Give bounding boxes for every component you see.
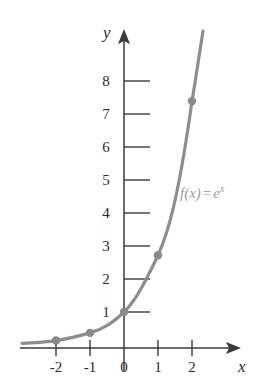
function-label-fx: f(x) <box>180 185 201 201</box>
exponential-function-figure: 8 7 6 5 4 3 2 1 -2 -1 0 1 2 y x f(x)=ex <box>0 0 268 390</box>
data-point-marker <box>86 329 94 337</box>
x-axis-label: x <box>238 358 246 375</box>
y-tick-label-1: 1 <box>99 305 113 320</box>
y-tick-label-3: 3 <box>99 239 113 254</box>
data-point-marker <box>154 251 162 259</box>
data-point-marker <box>52 336 60 344</box>
x-tick-label-minus-2: -2 <box>44 360 68 375</box>
x-tick-label-1: 1 <box>148 360 168 375</box>
x-tick-label-2: 2 <box>182 360 202 375</box>
y-tick-label-4: 4 <box>99 206 113 221</box>
chart-svg <box>0 0 268 390</box>
function-label-equals: = <box>201 185 213 201</box>
y-tick-label-7: 7 <box>99 107 113 122</box>
function-label-exponent: x <box>220 183 224 194</box>
function-label: f(x)=ex <box>180 186 224 201</box>
x-tick-label-minus-1: -1 <box>78 360 102 375</box>
y-tick-label-5: 5 <box>99 173 113 188</box>
x-tick-label-0: 0 <box>114 360 134 375</box>
data-point-marker <box>120 308 128 316</box>
y-axis-label: y <box>103 24 111 41</box>
chart-background <box>0 0 268 390</box>
function-label-base: e <box>213 185 220 201</box>
y-tick-label-2: 2 <box>99 272 113 287</box>
y-tick-label-6: 6 <box>99 140 113 155</box>
y-tick-label-8: 8 <box>99 74 113 89</box>
data-point-marker <box>188 97 196 105</box>
